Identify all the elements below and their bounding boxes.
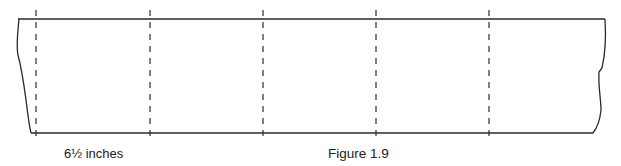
strip-left-torn-edge — [17, 19, 31, 133]
measurement-label: 6½ inches — [64, 146, 123, 161]
paper-strip-diagram — [0, 0, 621, 166]
figure-caption: Figure 1.9 — [328, 146, 389, 161]
strip-right-torn-edge — [593, 19, 605, 133]
